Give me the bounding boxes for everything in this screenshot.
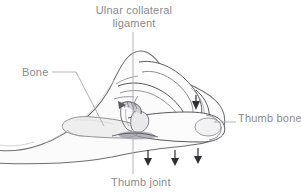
- label-ulnar-collateral-ligament: Ulnar collateral ligament: [78, 4, 190, 30]
- figure-container: Ulnar collateral ligament Bone Thumb bon…: [0, 0, 301, 196]
- force-arrow-3: [194, 148, 202, 164]
- label-thumb-joint: Thumb joint: [111, 176, 171, 189]
- wrist-crease: [0, 142, 34, 146]
- label-ulnar-line-1: Ulnar collateral: [96, 4, 173, 16]
- force-arrow-1: [144, 150, 152, 166]
- force-arrow-2: [171, 150, 179, 166]
- label-bone: Bone: [22, 66, 49, 79]
- label-thumb-bone: Thumb bone: [238, 112, 301, 125]
- label-ulnar-line-2: ligament: [112, 17, 155, 29]
- thumb-bone-distal: [195, 118, 221, 136]
